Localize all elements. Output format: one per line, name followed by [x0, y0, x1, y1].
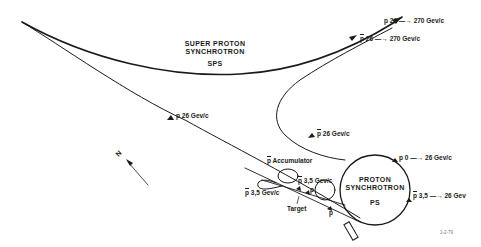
diagram-date: 1-2-79	[440, 231, 453, 236]
target-pointer	[0, 0, 481, 247]
